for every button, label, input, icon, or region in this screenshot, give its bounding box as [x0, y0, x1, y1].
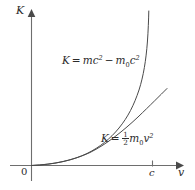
y-axis-label: K [16, 5, 24, 16]
eq-rel-m0: m [116, 54, 126, 66]
eq-rel-minus: − [103, 54, 116, 66]
eq-cls-m0: m [129, 132, 139, 144]
equation-relativistic: K=mc2−m0c2 [62, 55, 140, 66]
origin-label: 0 [21, 167, 27, 177]
eq-cls-equals: = [109, 132, 122, 144]
eq-rel-m: m [83, 54, 93, 66]
y-axis-arrowhead [28, 9, 36, 17]
eq-rel-exponent-2: 2 [136, 54, 140, 62]
eq-cls-fraction-one-half: 12 [122, 131, 129, 147]
eq-cls-k: K [101, 132, 109, 144]
curve-classical [32, 89, 168, 166]
eq-rel-k: K [62, 54, 70, 66]
eq-rel-equals: = [70, 54, 83, 66]
eq-cls-exponent: 2 [149, 132, 153, 140]
x-tick-label-c: c [149, 168, 155, 178]
plot-canvas [0, 0, 195, 190]
fraction-denominator: 2 [122, 138, 129, 147]
x-axis-label: v [178, 167, 184, 178]
fraction-numerator: 1 [122, 131, 129, 139]
kinetic-energy-figure: K v c 0 K=mc2−m0c2 K=12m0v2 [0, 0, 195, 190]
equation-classical: K=12m0v2 [101, 131, 154, 147]
